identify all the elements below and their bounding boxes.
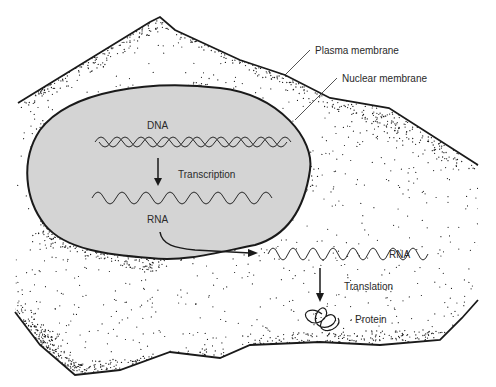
protein-icon [305,308,339,331]
dna-label: DNA [147,121,168,131]
diagram-canvas [0,0,496,387]
nuclear-membrane-label: Nuclear membrane [342,74,427,84]
translation-arrow [316,268,324,302]
transcription-label: Transcription [178,170,235,180]
plasma-membrane-leader [285,50,310,75]
plasma-membrane-label: Plasma membrane [315,46,399,56]
cell-diagram: Plasma membrane Nuclear membrane DNA Tra… [0,0,496,387]
rna-nucleus-label: RNA [147,215,168,225]
nucleus [27,85,310,259]
translation-label: Translation [344,282,393,292]
rna-cytoplasm-label: RNA [389,250,410,260]
protein-label: Protein [355,315,387,325]
